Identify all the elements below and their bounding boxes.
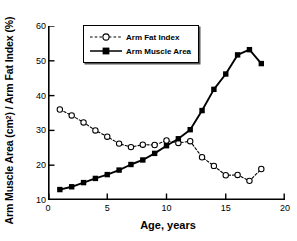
data-point-marker xyxy=(81,180,86,185)
data-point-marker xyxy=(93,176,98,181)
data-point-marker xyxy=(140,157,145,162)
x-axis-tick-labels: 05101520 xyxy=(48,203,285,217)
series-line-arm-fat-index xyxy=(60,110,261,181)
y-axis-tick-label: 40 xyxy=(24,91,46,101)
x-axis-title: Age, years xyxy=(48,219,288,231)
x-axis-tick-label: 15 xyxy=(214,203,238,213)
y-axis-title-suffix: ) / Arm Fat Index (%) xyxy=(3,17,15,116)
data-point-marker xyxy=(211,163,216,168)
data-point-marker xyxy=(247,47,252,52)
data-point-marker xyxy=(164,143,169,148)
data-point-marker xyxy=(188,138,193,143)
data-point-marker xyxy=(128,162,133,167)
data-point-marker xyxy=(116,167,121,172)
data-point-marker xyxy=(259,166,264,171)
data-point-marker xyxy=(69,184,74,189)
x-axis-tick-label: 20 xyxy=(273,203,297,213)
data-point-marker xyxy=(199,108,204,113)
data-point-marker xyxy=(105,134,110,139)
legend-item-arm-fat-index: Arm Fat Index xyxy=(89,30,191,44)
chart-figure: Arm Muscle Area (cm2) / Arm Fat Index (%… xyxy=(0,0,297,241)
data-point-marker xyxy=(223,173,228,178)
data-point-marker xyxy=(164,138,169,143)
data-point-marker xyxy=(57,187,62,192)
filled-square-solid-marker-icon xyxy=(89,45,123,57)
data-point-marker xyxy=(223,71,228,76)
data-point-marker xyxy=(152,151,157,156)
data-point-marker xyxy=(116,141,121,146)
legend-label: Arm Fat Index xyxy=(123,33,179,42)
y-axis-tick-labels: 102030405060 xyxy=(20,26,46,200)
data-point-marker xyxy=(247,178,252,183)
data-point-marker xyxy=(235,172,240,177)
chart-legend: Arm Fat Index Arm Muscle Area xyxy=(83,25,199,63)
data-point-marker xyxy=(93,128,98,133)
y-axis-tick-label: 30 xyxy=(24,125,46,135)
y-axis-tick-label: 50 xyxy=(24,56,46,66)
y-axis-tick-label: 20 xyxy=(24,160,46,170)
x-axis-tick-label: 10 xyxy=(155,203,179,213)
data-point-marker xyxy=(69,113,74,118)
data-point-marker xyxy=(211,87,216,92)
data-point-marker xyxy=(140,142,145,147)
x-axis-tick-label: 5 xyxy=(95,203,119,213)
data-point-marker xyxy=(176,136,181,141)
y-axis-title-prefix: Arm Muscle Area (cm xyxy=(3,119,15,224)
legend-item-arm-muscle-area: Arm Muscle Area xyxy=(89,44,191,58)
data-point-marker xyxy=(259,61,264,66)
y-axis-title: Arm Muscle Area (cm2) / Arm Fat Index (%… xyxy=(0,0,18,241)
legend-label: Arm Muscle Area xyxy=(123,47,191,56)
data-point-marker xyxy=(188,127,193,132)
data-point-marker xyxy=(199,155,204,160)
data-point-marker xyxy=(235,52,240,57)
data-point-marker xyxy=(152,142,157,147)
data-point-marker xyxy=(105,172,110,177)
data-point-marker xyxy=(81,120,86,125)
data-series-group xyxy=(57,47,264,192)
data-point-marker xyxy=(128,144,133,149)
x-axis-tick-label: 0 xyxy=(36,203,60,213)
series-line-arm-muscle-area xyxy=(60,50,261,190)
open-circle-dashed-marker-icon xyxy=(89,31,123,43)
y-axis-tick-label: 60 xyxy=(24,21,46,31)
data-point-marker xyxy=(57,107,62,112)
